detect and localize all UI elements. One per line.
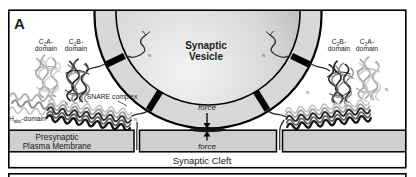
- right-c2b-label-line2: domain: [328, 45, 351, 52]
- vesicle-label-line1: Synaptic: [185, 40, 227, 51]
- n-terminus-label: N: [134, 117, 137, 122]
- membrane-label-line1: Presynaptic: [36, 133, 79, 142]
- force-up-label: force: [198, 142, 216, 151]
- panel-b-top-edge: [9, 174, 406, 177]
- force-down-label: force: [198, 103, 216, 112]
- synaptic-cleft-label: Synaptic Cleft: [173, 155, 232, 166]
- membrane-label-line2: Plasma Membrane: [23, 142, 92, 151]
- left-snare-tm-anchor: [137, 122, 138, 150]
- n-terminus-label: N: [262, 53, 265, 58]
- figure-panel-a: N N Synaptic Vesicle force: [0, 0, 416, 177]
- membrane-segment-right: [283, 130, 406, 152]
- n-terminus-label: N: [148, 53, 151, 58]
- snare-complex-label: SNARE complex: [87, 93, 138, 101]
- panel-letter: A: [14, 15, 25, 32]
- left-c2b-label-line2: domain: [65, 45, 88, 52]
- n-terminus-label: N: [385, 87, 388, 92]
- n-terminus-label: N: [306, 90, 309, 95]
- left-c2a-label-line2: domain: [35, 45, 58, 52]
- n-terminus-label: N: [65, 101, 68, 106]
- vesicle-label-line2: Vesicle: [189, 51, 223, 62]
- vesicle-membrane-contact: [190, 127, 226, 132]
- right-c2a-label-line2: domain: [356, 45, 379, 52]
